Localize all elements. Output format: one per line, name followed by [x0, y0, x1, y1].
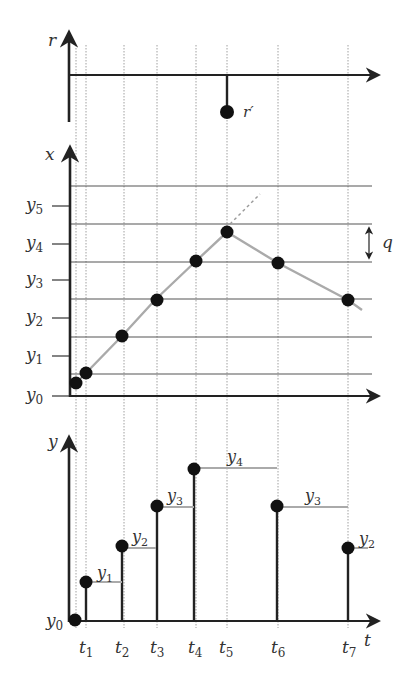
svg-text:t2: t2: [115, 637, 129, 660]
svg-text:t4: t4: [188, 637, 203, 660]
svg-text:y0: y0: [25, 384, 43, 407]
t-axis-label: t: [364, 630, 371, 650]
svg-text:t6: t6: [271, 637, 285, 660]
r-impulse-dot: [220, 105, 234, 119]
x-axis-label: x: [45, 144, 55, 164]
svg-text:y4: y4: [226, 447, 243, 469]
svg-text:y3: y3: [25, 268, 43, 291]
svg-text:y3: y3: [304, 486, 321, 508]
svg-text:t1: t1: [79, 637, 93, 660]
q-label: q: [382, 232, 393, 252]
r-impulse-label: r′: [243, 103, 254, 121]
time-labels: t1 t2 t3 t4 t5 t6 t7: [79, 637, 356, 660]
svg-text:y2: y2: [131, 527, 148, 549]
svg-text:t3: t3: [150, 637, 164, 660]
svg-text:y1: y1: [96, 563, 113, 585]
state-trajectory: [76, 232, 362, 383]
panel-y: y y1 y2 y3: [45, 431, 378, 660]
state-sample-dots: [70, 226, 355, 390]
svg-text:y5: y5: [25, 194, 43, 217]
svg-text:t7: t7: [342, 637, 356, 660]
svg-text:y2: y2: [25, 306, 43, 329]
output-level-labels: y1 y2 y3 y4 y3 y2 y0: [45, 447, 375, 633]
panel-x: x y0 y1 y2 y3 y4 y5: [25, 144, 393, 407]
svg-text:t5: t5: [219, 637, 233, 660]
y-axis-label: y: [47, 431, 58, 451]
panel-r: r r′: [48, 30, 378, 122]
quantized-state-diagram: r r′ x y0 y1 y2 y3 y4: [0, 0, 405, 684]
svg-text:y1: y1: [25, 344, 43, 367]
svg-text:y2: y2: [358, 529, 375, 551]
svg-text:y3: y3: [166, 486, 183, 508]
trajectory-extrapolation: [230, 194, 260, 224]
r-axis-label: r: [48, 30, 57, 50]
svg-text:y4: y4: [25, 232, 44, 255]
level-ticks: [52, 206, 69, 396]
output-hold-lines: [90, 468, 368, 582]
quantization-level-lines: [70, 186, 372, 374]
svg-text:y0: y0: [45, 610, 63, 633]
level-labels: y0 y1 y2 y3 y4 y5: [25, 194, 44, 407]
